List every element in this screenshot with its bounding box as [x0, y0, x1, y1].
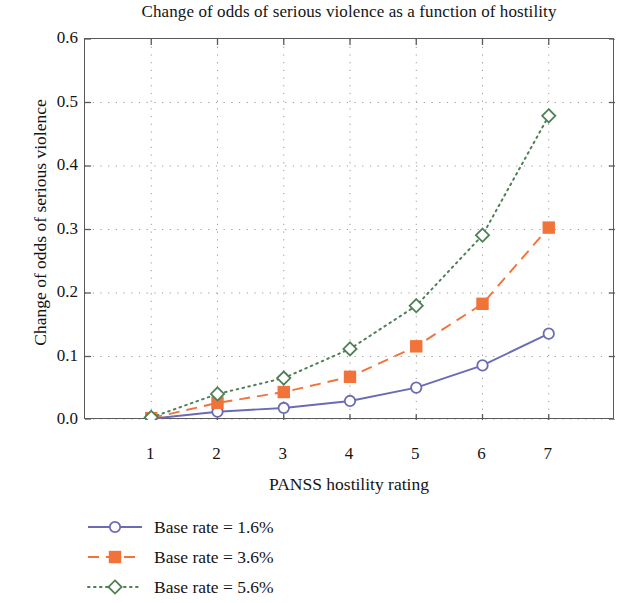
gridlines [85, 39, 615, 420]
x-tick-label: 5 [395, 444, 435, 464]
y-tick-label: 0.5 [32, 92, 78, 112]
legend-item[interactable]: Base rate = 5.6% [84, 572, 404, 602]
data-point-marker [345, 371, 356, 382]
x-axis-tick-labels: 1234567 [84, 444, 614, 468]
data-point-marker [110, 522, 120, 532]
data-point-marker [542, 109, 555, 122]
plot-canvas [85, 39, 615, 420]
data-point-marker [543, 222, 554, 233]
data-point-marker [477, 298, 488, 309]
data-point-marker [278, 387, 289, 398]
legend-marker-icon [84, 544, 146, 570]
legend-item[interactable]: Base rate = 1.6% [84, 512, 404, 542]
y-axis-tick-labels: 0.00.10.20.30.40.50.6 [22, 38, 78, 419]
data-point-marker [108, 580, 121, 593]
data-series [146, 222, 555, 420]
x-tick-label: 1 [130, 444, 170, 464]
x-tick-label: 6 [462, 444, 502, 464]
chart-legend: Base rate = 1.6%Base rate = 3.6%Base rat… [84, 512, 404, 602]
chart-figure: Change of odds of serious violence as a … [0, 0, 627, 603]
legend-label: Base rate = 3.6% [146, 547, 274, 568]
data-point-marker [411, 341, 422, 352]
data-point-marker [544, 328, 554, 338]
y-tick-label: 0.6 [32, 28, 78, 48]
x-tick-label: 7 [528, 444, 568, 464]
plot-area [84, 38, 614, 419]
x-tick-label: 3 [263, 444, 303, 464]
legend-label: Base rate = 5.6% [146, 577, 274, 598]
data-point-marker [110, 552, 121, 563]
data-point-marker [345, 396, 355, 406]
y-tick-label: 0.0 [32, 409, 78, 429]
x-tick-label: 4 [329, 444, 369, 464]
x-axis-title: PANSS hostility rating [84, 474, 614, 495]
data-point-marker [343, 342, 356, 355]
data-point-marker [477, 360, 487, 370]
legend-item[interactable]: Base rate = 3.6% [84, 542, 404, 572]
y-tick-label: 0.1 [32, 346, 78, 366]
y-tick-label: 0.3 [32, 219, 78, 239]
data-point-marker [279, 403, 289, 413]
legend-marker-icon [84, 514, 146, 540]
y-tick-label: 0.4 [32, 155, 78, 175]
chart-title: Change of odds of serious violence as a … [84, 2, 614, 22]
series-line [151, 228, 549, 419]
legend-marker-icon [84, 574, 146, 600]
data-point-marker [277, 371, 290, 384]
legend-label: Base rate = 1.6% [146, 517, 274, 538]
y-tick-label: 0.2 [32, 282, 78, 302]
x-tick-label: 2 [197, 444, 237, 464]
data-point-marker [411, 382, 421, 392]
data-series-layer [145, 109, 556, 420]
